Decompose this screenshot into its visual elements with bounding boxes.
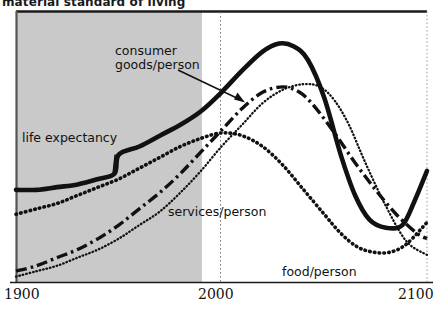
x-tick-2100: 2100 xyxy=(398,286,434,302)
chart-page: material standard of living 1900 2000 21… xyxy=(0,0,441,310)
x-tick-2000: 2000 xyxy=(198,286,234,302)
x-tick-1900: 1900 xyxy=(4,286,40,302)
material-standard-of-living-chart xyxy=(0,0,441,310)
label-consumer-goods-per-person: consumer goods/person xyxy=(115,44,200,72)
label-services-per-person: services/person xyxy=(168,205,266,219)
label-food-per-person: food/person xyxy=(282,265,357,279)
label-consumer-goods-line-1: consumer xyxy=(115,44,200,58)
label-consumer-goods-line-2: goods/person xyxy=(115,58,200,72)
label-life-expectancy: life expectancy xyxy=(22,131,117,145)
life-expectancy-step xyxy=(115,155,117,174)
